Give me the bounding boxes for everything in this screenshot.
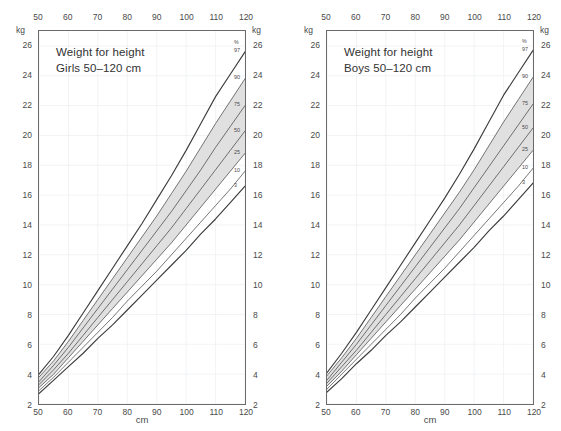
ytick-left-10: 10: [10, 280, 32, 290]
xtick-bottom-90: 90: [152, 407, 161, 417]
percentile-header: %: [522, 38, 527, 44]
xtick-bottom-60: 60: [351, 407, 360, 417]
ytick-right-12: 12: [253, 250, 262, 260]
percentile-header: %: [234, 39, 239, 45]
xtick-bottom-120: 120: [527, 407, 541, 417]
xtick-bottom-50: 50: [321, 407, 330, 417]
xtick-bottom-100: 100: [179, 407, 193, 417]
xtick-top-80: 80: [410, 12, 419, 22]
ytick-left-24: 24: [10, 70, 32, 80]
xtick-top-80: 80: [122, 12, 131, 22]
ytick-right-16: 16: [541, 190, 550, 200]
ytick-right-16: 16: [253, 190, 262, 200]
percentile-label-25: 25: [522, 146, 528, 152]
ytick-right-22: 22: [253, 100, 262, 110]
ytick-right-4: 4: [541, 370, 546, 380]
xtick-top-70: 70: [93, 12, 102, 22]
ytick-right-20: 20: [253, 130, 262, 140]
ytick-right-24: 24: [253, 70, 262, 80]
ytick-right-8: 8: [253, 310, 258, 320]
panel-girls: Weight for height Girls 50–120 cm kg kg …: [0, 0, 281, 431]
xtick-bottom-110: 110: [210, 407, 224, 417]
ytick-left-2: 2: [10, 400, 32, 410]
xtick-bottom-70: 70: [381, 407, 390, 417]
title-line-2: Girls 50–120 cm: [56, 60, 144, 76]
xtick-top-100: 100: [467, 12, 481, 22]
ytick-left-16: 16: [298, 190, 320, 200]
ytick-left-2: 2: [298, 400, 320, 410]
xtick-top-90: 90: [440, 12, 449, 22]
ytick-left-6: 6: [10, 340, 32, 350]
title-line-2: Boys 50–120 cm: [344, 60, 432, 76]
percentile-label-10: 10: [522, 164, 528, 170]
xtick-top-120: 120: [527, 12, 541, 22]
chart-title-girls: Weight for height Girls 50–120 cm: [56, 44, 144, 76]
xtick-bottom-50: 50: [33, 407, 42, 417]
ytick-right-24: 24: [541, 70, 550, 80]
ytick-left-22: 22: [298, 100, 320, 110]
plot-area-girls: [38, 30, 246, 405]
xtick-top-120: 120: [239, 12, 253, 22]
ytick-left-20: 20: [10, 130, 32, 140]
ytick-left-26: 26: [10, 40, 32, 50]
ytick-right-22: 22: [541, 100, 550, 110]
xtick-bottom-60: 60: [63, 407, 72, 417]
percentile-label-50: 50: [522, 124, 528, 130]
ytick-left-8: 8: [298, 310, 320, 320]
ytick-right-2: 2: [541, 400, 546, 410]
percentile-curves-boys: [327, 31, 533, 404]
ytick-left-4: 4: [298, 370, 320, 380]
percentile-label-50: 50: [234, 127, 240, 133]
ytick-right-12: 12: [541, 250, 550, 260]
ytick-left-18: 18: [298, 160, 320, 170]
ytick-right-10: 10: [541, 280, 550, 290]
ytick-right-18: 18: [541, 160, 550, 170]
ytick-right-6: 6: [253, 340, 258, 350]
xtick-bottom-80: 80: [122, 407, 131, 417]
xtick-bottom-100: 100: [467, 407, 481, 417]
ytick-right-20: 20: [541, 130, 550, 140]
chart-title-boys: Weight for height Boys 50–120 cm: [344, 44, 432, 76]
xtick-bottom-110: 110: [498, 407, 512, 417]
xtick-top-110: 110: [210, 12, 224, 22]
ytick-right-8: 8: [541, 310, 546, 320]
ytick-left-18: 18: [10, 160, 32, 170]
xtick-top-60: 60: [351, 12, 360, 22]
xtick-top-110: 110: [498, 12, 512, 22]
ytick-right-10: 10: [253, 280, 262, 290]
percentile-label-90: 90: [234, 74, 240, 80]
ytick-left-4: 4: [10, 370, 32, 380]
ytick-left-20: 20: [298, 130, 320, 140]
unit-kg-top-left: kg: [304, 25, 313, 35]
ytick-right-14: 14: [541, 220, 550, 230]
title-line-1: Weight for height: [344, 44, 432, 60]
ytick-left-24: 24: [298, 70, 320, 80]
ytick-right-18: 18: [253, 160, 262, 170]
ytick-left-14: 14: [10, 220, 32, 230]
unit-kg-top-left: kg: [16, 25, 25, 35]
xtick-top-90: 90: [152, 12, 161, 22]
ytick-left-14: 14: [298, 220, 320, 230]
ytick-left-16: 16: [10, 190, 32, 200]
ytick-right-4: 4: [253, 370, 258, 380]
percentile-label-90: 90: [522, 73, 528, 79]
ytick-left-22: 22: [10, 100, 32, 110]
xaxis-label-cm: cm: [136, 414, 149, 425]
unit-kg-top-right: kg: [540, 25, 549, 35]
xtick-top-70: 70: [381, 12, 390, 22]
ytick-left-26: 26: [298, 40, 320, 50]
percentile-label-75: 75: [234, 101, 240, 107]
title-line-1: Weight for height: [56, 44, 144, 60]
percentile-label-10: 10: [234, 167, 240, 173]
ytick-left-8: 8: [10, 310, 32, 320]
ytick-left-12: 12: [10, 250, 32, 260]
ytick-left-10: 10: [298, 280, 320, 290]
xtick-top-60: 60: [63, 12, 72, 22]
percentile-label-97: 97: [522, 46, 528, 52]
xtick-bottom-120: 120: [239, 407, 253, 417]
percentile-label-3: 3: [234, 182, 237, 188]
xtick-bottom-90: 90: [440, 407, 449, 417]
ytick-left-6: 6: [298, 340, 320, 350]
ytick-left-12: 12: [298, 250, 320, 260]
ytick-right-6: 6: [541, 340, 546, 350]
